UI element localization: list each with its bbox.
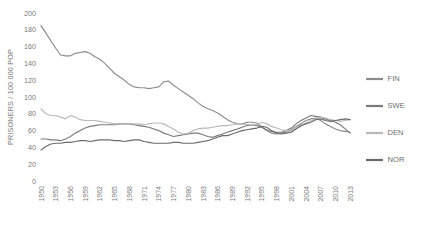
- x-tick-label: 1956: [67, 186, 74, 202]
- y-tick-label: 60: [28, 126, 36, 135]
- y-tick-label: 200: [24, 9, 36, 18]
- x-tick-label: 1983: [200, 186, 207, 202]
- legend-label-swe: SWE: [388, 101, 405, 110]
- x-tick-label: 1992: [244, 186, 251, 202]
- y-tick-label: 20: [28, 160, 36, 169]
- y-tick-label: 140: [24, 59, 36, 68]
- x-tick-label: 2007: [317, 186, 324, 202]
- x-tick-label: 2010: [332, 186, 339, 202]
- x-tick-label: 1971: [141, 186, 148, 202]
- y-tick-label: 100: [24, 93, 36, 102]
- x-tick-label: 1995: [258, 186, 265, 202]
- x-tick-label: 1968: [126, 186, 133, 202]
- y-tick-label: 120: [24, 76, 36, 85]
- x-tick-label: 1998: [273, 186, 280, 202]
- y-axis-title: PRISONERS / 100 000 POP: [6, 49, 15, 145]
- x-tick-label: 1950: [38, 186, 45, 202]
- x-tick-label: 2013: [347, 186, 354, 202]
- y-tick-label: 40: [28, 143, 36, 152]
- y-tick-label: 0: [32, 177, 36, 186]
- line-chart: 020406080100120140160180200 195019531956…: [0, 0, 428, 227]
- x-tick-label: 1965: [111, 186, 118, 202]
- x-tick-label: 1959: [82, 186, 89, 202]
- x-tick-label: 1989: [229, 186, 236, 202]
- x-tick-label: 2001: [288, 186, 295, 202]
- x-tick-label: 1977: [170, 186, 177, 202]
- chart-canvas: 020406080100120140160180200 195019531956…: [0, 0, 428, 227]
- x-tick-label: 1962: [96, 186, 103, 202]
- x-tick-label: 1980: [185, 186, 192, 202]
- legend-label-den: DEN: [388, 128, 404, 137]
- plot-area: [41, 26, 350, 150]
- series-line-nor: [41, 119, 350, 150]
- legend: FINSWEDENNOR: [366, 74, 405, 164]
- x-tick-label: 1986: [214, 186, 221, 202]
- y-tick-label: 180: [24, 25, 36, 34]
- x-tick-label: 1974: [155, 186, 162, 202]
- series-line-swe: [41, 115, 350, 140]
- series-line-fin: [41, 26, 350, 134]
- y-axis-ticks: 020406080100120140160180200: [24, 9, 36, 186]
- legend-label-fin: FIN: [388, 74, 400, 83]
- y-tick-label: 160: [24, 42, 36, 51]
- x-axis-ticks: 1950195319561959196219651968197119741977…: [38, 186, 354, 202]
- x-tick-label: 2004: [303, 186, 310, 202]
- x-tick-label: 1953: [52, 186, 59, 202]
- legend-label-nor: NOR: [388, 155, 405, 164]
- y-tick-label: 80: [28, 109, 36, 118]
